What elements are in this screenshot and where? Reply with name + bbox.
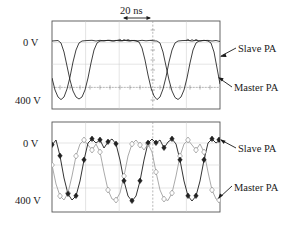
upper-panel [52,21,220,109]
lower-panel-frame [52,122,220,212]
lower-panel-master-label: Master PA [234,183,278,194]
lower-panel-ytick-0v: 0 V [23,139,38,150]
upper-panel-ytick-400v: 400 V [15,96,41,107]
lower-panel-slave-label: Slave PA [238,144,276,155]
lower-panel-ytick-400v: 400 V [15,196,41,207]
upper-panel-master-label: Master PA [234,83,278,94]
lower-panel [50,122,222,212]
upper-panel-frame [52,21,220,109]
time-scale-label: 20 ns [120,6,142,17]
upper-panel-slave-label: Slave PA [238,44,276,55]
upper-panel-ytick-0v: 0 V [23,38,38,49]
